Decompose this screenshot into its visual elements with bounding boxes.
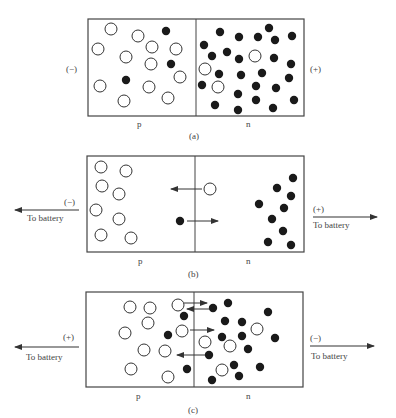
panel-a-n-label: n	[246, 119, 251, 129]
panel-c-right-terminal: (−)	[310, 333, 321, 343]
electron-dot-icon	[183, 365, 191, 373]
hole-circle-icon	[96, 180, 108, 192]
panel-a-left-terminal: (−)	[66, 64, 77, 74]
electron-dot-icon	[122, 76, 130, 84]
electron-dot-icon	[279, 227, 287, 235]
hole-circle-icon	[138, 344, 150, 356]
electron-dot-icon	[235, 55, 243, 63]
electron-dot-icon	[224, 299, 232, 307]
hole-circle-icon	[204, 183, 216, 195]
hole-circle-icon	[212, 81, 224, 93]
electron-dot-icon	[258, 69, 266, 77]
electron-dot-icon	[176, 217, 184, 225]
hole-circle-icon	[119, 327, 131, 339]
electron-dot-icon	[270, 54, 278, 62]
hole-circle-icon	[113, 213, 125, 225]
hole-circle-icon	[95, 229, 107, 241]
hole-circle-icon	[251, 323, 263, 335]
panel-b-left-terminal: (−)	[64, 197, 75, 207]
electron-dot-icon	[198, 81, 206, 89]
hole-circle-icon	[105, 23, 117, 35]
electron-dot-icon	[287, 60, 295, 68]
electron-dot-icon	[288, 32, 296, 40]
electron-dot-icon	[211, 101, 219, 109]
hole-circle-icon	[94, 80, 106, 92]
panel-b-caption: (b)	[188, 269, 199, 279]
electron-dot-icon	[215, 70, 223, 78]
electron-dot-icon	[287, 192, 295, 200]
electron-dot-icon	[264, 308, 272, 316]
electron-dot-icon	[255, 200, 263, 208]
electron-dot-icon	[234, 90, 242, 98]
hole-circle-icon	[176, 325, 188, 337]
panel-a-right-terminal: (+)	[310, 64, 321, 74]
hole-circle-icon	[199, 336, 211, 348]
panel-b-right-terminal: (+)	[313, 204, 324, 214]
electron-dot-icon	[200, 41, 208, 49]
electron-dot-icon	[234, 106, 242, 114]
panel-c-left-battery-label: To battery	[26, 352, 63, 362]
panel-b-p-label: p	[138, 256, 143, 266]
electron-dot-icon	[221, 317, 229, 325]
hole-circle-icon	[132, 30, 144, 42]
panel-b-left-battery-label: To battery	[27, 213, 64, 223]
hole-circle-icon	[92, 43, 104, 55]
hole-circle-icon	[145, 58, 157, 70]
electron-dot-icon	[180, 312, 188, 320]
hole-circle-icon	[90, 204, 102, 216]
hole-circle-icon	[125, 363, 137, 375]
electron-dot-icon	[167, 60, 175, 68]
panel-b: (−) To battery (+) To battery p n (b)	[15, 156, 377, 279]
electron-dot-icon	[244, 345, 252, 353]
electron-dot-icon	[264, 238, 272, 246]
hole-circle-icon	[199, 63, 211, 75]
panel-c-right-battery-label: To battery	[311, 351, 348, 361]
electron-dot-icon	[252, 82, 260, 90]
panel-c-n-label: n	[246, 391, 251, 401]
electron-dot-icon	[205, 351, 213, 359]
electron-dot-icon	[235, 372, 243, 380]
hole-circle-icon	[125, 232, 137, 244]
electron-dot-icon	[216, 28, 224, 36]
panel-c: (+) To battery (−) To battery p n (c)	[15, 292, 374, 415]
electron-dot-icon	[265, 24, 273, 32]
electron-dot-icon	[223, 48, 231, 56]
electron-dot-icon	[287, 241, 295, 249]
electron-dot-icon	[289, 174, 297, 182]
electron-dot-icon	[254, 33, 262, 41]
hole-circle-icon	[124, 301, 136, 313]
electron-dot-icon	[256, 363, 264, 371]
electron-dot-icon	[218, 333, 226, 341]
hole-circle-icon	[142, 317, 154, 329]
electron-dot-icon	[252, 96, 260, 104]
hole-circle-icon	[159, 345, 171, 357]
electron-dot-icon	[230, 361, 238, 369]
electron-dot-icon	[162, 27, 170, 35]
panel-c-left-terminal: (+)	[63, 332, 74, 342]
hole-circle-icon	[118, 95, 130, 107]
hole-circle-icon	[170, 43, 182, 55]
hole-circle-icon	[162, 92, 174, 104]
electron-dot-icon	[238, 318, 246, 326]
electron-dot-icon	[290, 96, 298, 104]
electron-dot-icon	[280, 204, 288, 212]
panel-c-p-label: p	[136, 391, 141, 401]
hole-circle-icon	[216, 364, 228, 376]
electron-dot-icon	[209, 304, 217, 312]
electron-dot-icon	[285, 74, 293, 82]
hole-circle-icon	[120, 51, 132, 63]
hole-circle-icon	[146, 41, 158, 53]
hole-circle-icon	[162, 371, 174, 383]
electron-dot-icon	[271, 36, 279, 44]
electron-dot-icon	[273, 184, 281, 192]
hole-circle-icon	[95, 161, 107, 173]
hole-circle-icon	[172, 299, 184, 311]
hole-circle-icon	[224, 340, 236, 352]
panel-a: (−) (+) p n (a)	[66, 19, 321, 141]
panel-b-n-label: n	[246, 256, 251, 266]
panel-a-p-label: p	[137, 119, 142, 129]
electron-dot-icon	[235, 33, 243, 41]
electron-dot-icon	[164, 331, 172, 339]
hole-circle-icon	[144, 302, 156, 314]
pn-junction-figure: (−) (+) p n (a) (−) To battery (+) To ba…	[0, 0, 396, 418]
